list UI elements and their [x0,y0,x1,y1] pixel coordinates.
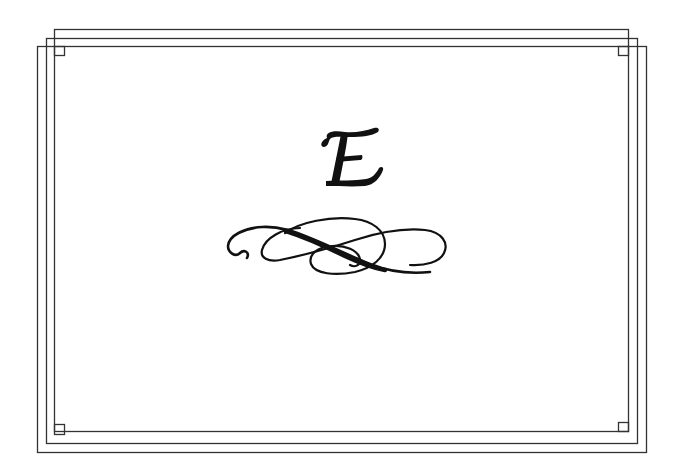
initial-letter-e [321,128,383,187]
flourish-ornament [228,218,446,274]
